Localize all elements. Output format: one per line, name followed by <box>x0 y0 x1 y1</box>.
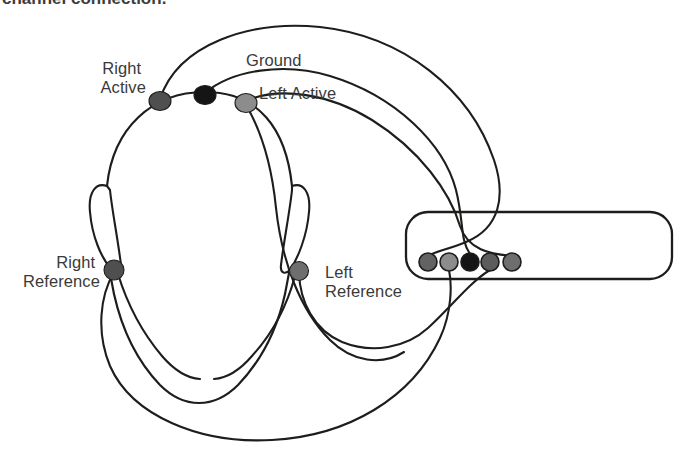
label-ground: Ground <box>246 51 302 69</box>
label-right-reference: Right Reference <box>23 253 100 290</box>
device-port-5[interactable] <box>503 253 521 271</box>
electrode-left-reference[interactable] <box>290 262 309 281</box>
label-right-active-line2: Active <box>100 78 146 96</box>
label-left-reference: Left Reference <box>325 263 402 300</box>
device-ports-layer <box>419 253 521 271</box>
device-port-3[interactable] <box>461 253 479 271</box>
eeg-electrode-diagram: channel connection. <box>0 0 692 452</box>
head-group <box>90 92 310 403</box>
electrode-right-reference[interactable] <box>104 260 124 280</box>
label-left-reference-line2: Reference <box>325 282 402 300</box>
electrode-right-active[interactable] <box>149 92 171 111</box>
electrode-left-active[interactable] <box>235 94 257 113</box>
label-left-reference-line1: Left <box>325 263 353 281</box>
label-right-active: Right Active <box>100 59 146 96</box>
head-outline <box>105 92 293 403</box>
device-port-4[interactable] <box>481 253 499 271</box>
device-port-1[interactable] <box>419 253 437 271</box>
label-right-active-line1: Right <box>102 59 141 77</box>
electrode-ground[interactable] <box>194 86 216 105</box>
device-port-2[interactable] <box>440 253 458 271</box>
diagram-canvas: Right Active Ground Left Active Right Re… <box>0 0 692 452</box>
label-right-reference-line1: Right <box>56 253 95 271</box>
label-left-active: Left Active <box>259 84 336 102</box>
label-right-reference-line2: Reference <box>23 272 100 290</box>
